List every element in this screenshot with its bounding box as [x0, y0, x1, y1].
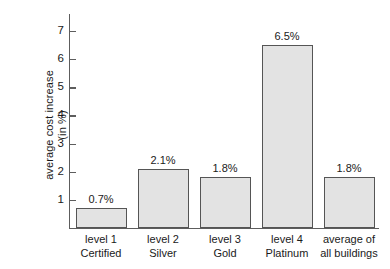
- bar-chart: average cost increase (in %) 1234567 0.7…: [0, 0, 390, 269]
- y-axis-tick-label: 2: [48, 166, 64, 177]
- bar-group[interactable]: 6.5%: [262, 14, 313, 228]
- y-axis-tick-label: 5: [48, 81, 64, 92]
- y-axis-tick-label: 7: [48, 25, 64, 36]
- bar-group[interactable]: 0.7%: [76, 14, 127, 228]
- x-axis-category-label-line-1: average of: [312, 233, 386, 247]
- y-axis-tick-label: 1: [48, 194, 64, 205]
- bar[interactable]: [262, 45, 313, 228]
- y-axis-tick-label: 6: [48, 53, 64, 64]
- plot-area: 0.7%2.1%1.8%6.5%1.8%: [70, 14, 380, 228]
- x-axis-category-label-line-2: all buildings: [312, 247, 386, 261]
- x-axis-category-label: average ofall buildings: [312, 233, 386, 260]
- bar-group[interactable]: 2.1%: [138, 14, 189, 228]
- bar-value-label: 2.1%: [138, 154, 189, 166]
- bar[interactable]: [324, 177, 375, 228]
- bar-value-label: 0.7%: [76, 193, 127, 205]
- y-axis-tick-label: 4: [48, 109, 64, 120]
- bar-value-label: 1.8%: [200, 162, 251, 174]
- bar[interactable]: [200, 177, 251, 228]
- bar-value-label: 1.8%: [324, 162, 375, 174]
- x-axis-line: [69, 228, 379, 229]
- bar[interactable]: [138, 169, 189, 228]
- bar-group[interactable]: 1.8%: [324, 14, 375, 228]
- bar-value-label: 6.5%: [262, 30, 313, 42]
- bar-group[interactable]: 1.8%: [200, 14, 251, 228]
- bar[interactable]: [76, 208, 127, 228]
- y-axis-tick-label: 3: [48, 138, 64, 149]
